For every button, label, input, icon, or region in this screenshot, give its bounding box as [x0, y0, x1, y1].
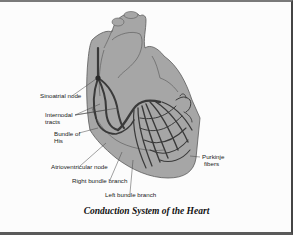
label-bundle-of-his-line2: His — [54, 137, 63, 144]
label-bundle-of-his-line1: Bundle of — [54, 130, 80, 137]
label-purkinje-fibers-line1: Purkinje — [202, 153, 224, 160]
heart-illustration — [0, 0, 293, 235]
aorta-knob — [112, 18, 124, 26]
label-internodal-tracts-line2: tracts — [45, 118, 60, 125]
vessel-knob — [124, 12, 138, 19]
label-purkinje-fibers-line2: fibers — [204, 160, 219, 167]
figure-caption: Conduction System of the Heart — [0, 206, 293, 216]
label-left-bundle-branch: Left bundle branch — [105, 191, 156, 198]
label-right-bundle-branch: Right bundle branch — [72, 177, 127, 184]
label-sinoatrial-node: Sinoatrial node — [40, 92, 81, 99]
label-internodal-tracts-line1: Internodal — [45, 111, 73, 118]
label-atrioventricular-node: Atrioventricular node — [51, 163, 108, 170]
